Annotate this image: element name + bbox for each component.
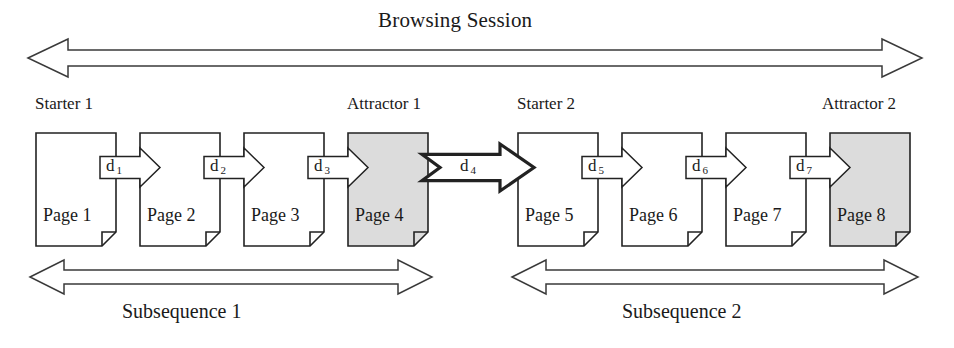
d-6-label: d6 — [692, 156, 708, 176]
page-4-label: Page 4 — [355, 205, 404, 226]
page-4-shape — [348, 133, 428, 246]
page-2-shape — [140, 133, 220, 246]
subsequence-1-arrow-shape — [30, 260, 432, 294]
d-5-label: d5 — [588, 156, 604, 176]
starter-2-label: Starter 2 — [517, 94, 575, 114]
d-7-label: d7 — [796, 156, 812, 176]
subsequence-2-arrow-shape — [512, 260, 918, 294]
page-8-shape — [830, 133, 910, 246]
browsing-session-diagram: Browsing Session Starter 1Attractor 1Sta… — [0, 0, 954, 348]
page-1-shape — [36, 133, 116, 246]
page-2-label: Page 2 — [147, 205, 196, 226]
page-6-shape — [622, 133, 702, 246]
d-2-label: d2 — [210, 156, 226, 176]
browsing-session-arrow-shape — [28, 39, 922, 77]
page-8-label: Page 8 — [837, 205, 886, 226]
browsing-session-arrow — [28, 39, 922, 77]
page-5-label: Page 5 — [525, 205, 574, 226]
page-1-label: Page 1 — [43, 205, 92, 226]
d-4-label: d4 — [460, 156, 476, 176]
page-5-shape — [518, 133, 598, 246]
page-7-label: Page 7 — [733, 205, 782, 226]
page-3-label: Page 3 — [251, 205, 300, 226]
subsequence-2-label: Subsequence 2 — [622, 300, 741, 323]
starter-1-label: Starter 1 — [35, 94, 93, 114]
page-6-label: Page 6 — [629, 205, 678, 226]
attractor-1-label: Attractor 1 — [347, 94, 421, 114]
attractor-2-label: Attractor 2 — [822, 94, 896, 114]
subsequence-arrows-group — [30, 260, 918, 294]
d-1-label: d1 — [106, 156, 122, 176]
page-7-shape — [726, 133, 806, 246]
page-shapes-group — [36, 133, 910, 246]
subsequence-1-label: Subsequence 1 — [122, 300, 241, 323]
page-3-shape — [244, 133, 324, 246]
d-3-label: d3 — [314, 156, 330, 176]
